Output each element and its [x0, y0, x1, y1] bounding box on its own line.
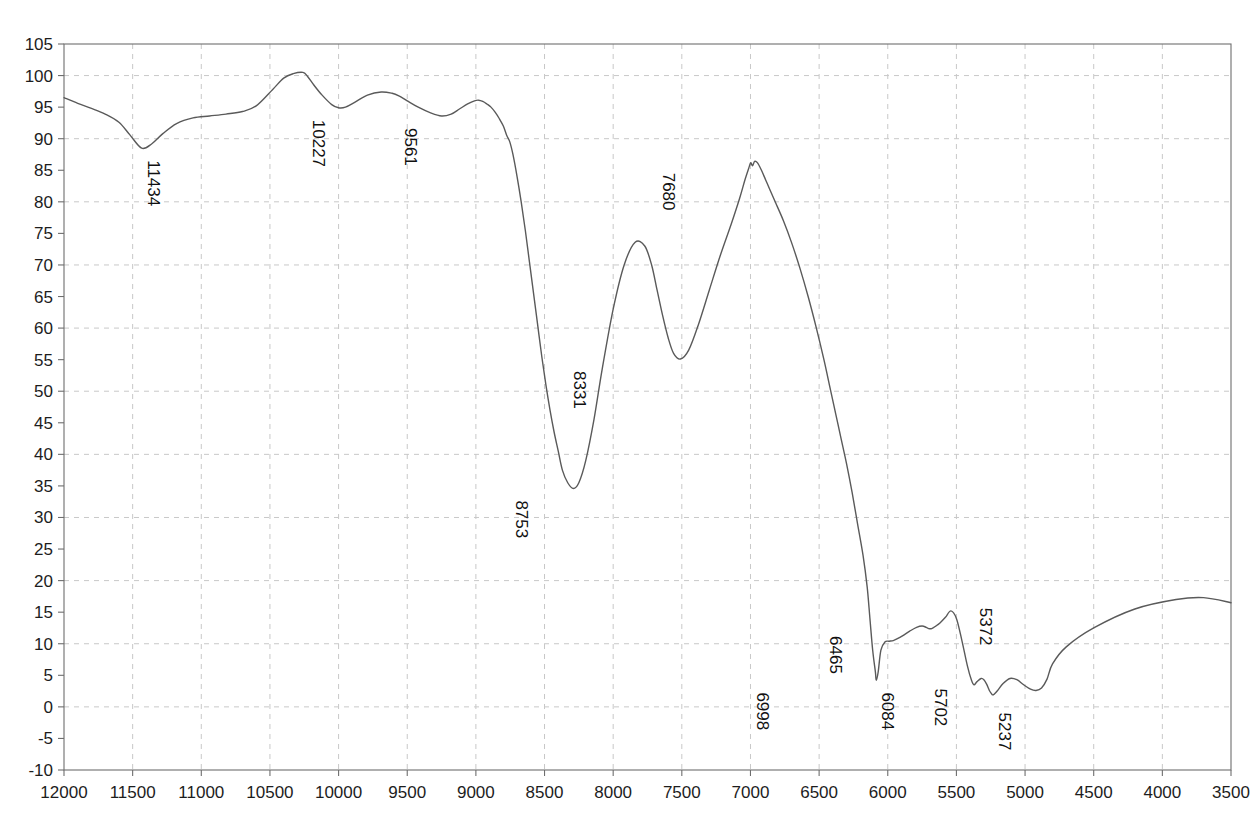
peak-label: 5372 — [976, 608, 995, 646]
chart-background — [0, 0, 1252, 838]
y-tick-label: 25 — [34, 540, 53, 559]
y-tick-label: 100 — [25, 67, 53, 86]
x-tick-label: 8000 — [594, 783, 632, 802]
y-tick-label: 45 — [34, 414, 53, 433]
y-tick-label: 105 — [25, 35, 53, 54]
peak-label: 5702 — [931, 689, 950, 727]
x-tick-label: 4500 — [1075, 783, 1113, 802]
x-tick-label: 9500 — [388, 783, 426, 802]
y-tick-label: 85 — [34, 161, 53, 180]
peak-label: 8753 — [512, 500, 531, 538]
peak-label: 6465 — [826, 636, 845, 674]
x-tick-label: 4000 — [1143, 783, 1181, 802]
x-tick-label: 3500 — [1212, 783, 1250, 802]
x-tick-label: 7500 — [663, 783, 701, 802]
y-tick-label: 90 — [34, 130, 53, 149]
y-tick-label: -5 — [38, 729, 53, 748]
y-tick-label: 55 — [34, 351, 53, 370]
x-tick-label: 11000 — [178, 783, 224, 802]
y-tick-label: 15 — [34, 603, 53, 622]
peak-label: 9561 — [401, 128, 420, 166]
y-tick-label: 95 — [34, 98, 53, 117]
peak-label: 8331 — [570, 371, 589, 409]
y-tick-label: 0 — [44, 698, 53, 717]
y-tick-label: 60 — [34, 319, 53, 338]
peak-label: 6084 — [878, 692, 897, 730]
peak-label: 11434 — [144, 160, 163, 206]
y-tick-label: 10 — [34, 635, 53, 654]
spectrum-chart: 1200011500110001050010000950090008500800… — [0, 0, 1252, 838]
chart-canvas: 1200011500110001050010000950090008500800… — [0, 0, 1252, 838]
x-tick-label: 8500 — [526, 783, 564, 802]
y-tick-label: 5 — [44, 666, 53, 685]
y-tick-label: 65 — [34, 288, 53, 307]
x-tick-label: 10000 — [315, 783, 362, 802]
y-tick-label: 30 — [34, 508, 53, 527]
x-tick-label: 5000 — [1006, 783, 1044, 802]
y-tick-label: 70 — [34, 256, 53, 275]
x-tick-label: 6000 — [869, 783, 907, 802]
y-tick-label: 35 — [34, 477, 53, 496]
y-tick-label: 75 — [34, 224, 53, 243]
x-tick-label: 6500 — [800, 783, 838, 802]
y-tick-label: 50 — [34, 382, 53, 401]
x-tick-label: 5500 — [937, 783, 975, 802]
y-tick-label: 80 — [34, 193, 53, 212]
y-tick-label: 20 — [34, 572, 53, 591]
peak-label: 7680 — [659, 173, 678, 211]
x-tick-label: 12000 — [40, 783, 87, 802]
peak-label: 5237 — [995, 713, 1014, 751]
x-tick-label: 9000 — [457, 783, 495, 802]
y-tick-label: -10 — [28, 761, 53, 780]
x-tick-label: 10500 — [246, 783, 293, 802]
peak-label: 6998 — [753, 692, 772, 730]
y-tick-label: 40 — [34, 445, 53, 464]
x-tick-label: 7000 — [732, 783, 770, 802]
peak-label: 10227 — [309, 120, 328, 167]
x-tick-label: 11500 — [110, 783, 156, 802]
